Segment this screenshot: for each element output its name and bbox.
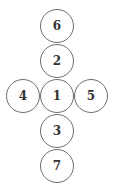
circle-node-2: 2 xyxy=(40,44,74,78)
circle-node-6: 6 xyxy=(40,9,74,43)
circle-node-5: 5 xyxy=(74,79,108,113)
node-label: 3 xyxy=(53,124,61,138)
node-label: 2 xyxy=(53,54,61,68)
node-label: 4 xyxy=(19,89,27,103)
node-label: 7 xyxy=(53,159,61,173)
circle-node-3: 3 xyxy=(40,114,74,148)
node-label: 1 xyxy=(53,89,61,103)
circle-node-7: 7 xyxy=(40,149,74,183)
circle-node-1: 1 xyxy=(40,79,74,113)
node-label: 5 xyxy=(87,89,95,103)
circle-node-4: 4 xyxy=(6,79,40,113)
node-label: 6 xyxy=(53,19,61,33)
